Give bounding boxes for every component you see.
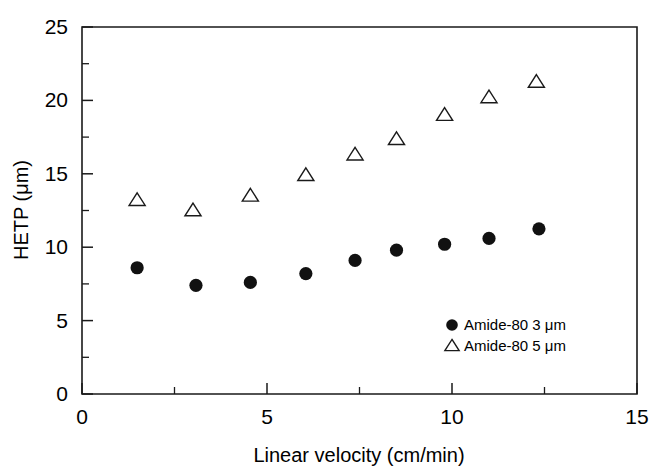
x-tick-label: 0 xyxy=(76,405,88,428)
x-axis-minor-ticks xyxy=(175,387,545,394)
series-amide-80-3um-points xyxy=(131,222,546,292)
data-point-filled-circle xyxy=(299,267,312,280)
data-point-filled-circle xyxy=(189,279,202,292)
x-tick-label: 10 xyxy=(440,405,463,428)
data-point-open-triangle xyxy=(129,193,145,206)
scatter-plot-svg: 0510152025 051015 Linear velocity (cm/mi… xyxy=(0,0,667,474)
data-point-filled-circle xyxy=(244,276,257,289)
legend-label: Amide-80 5 μm xyxy=(464,337,566,354)
data-point-open-triangle xyxy=(298,168,314,181)
y-tick-label: 20 xyxy=(45,88,68,111)
y-axis-title: HETP (μm) xyxy=(10,160,32,260)
x-tick-label: 5 xyxy=(261,405,273,428)
y-axis-minor-ticks xyxy=(82,64,89,358)
data-point-open-triangle xyxy=(388,132,404,145)
x-axis-tick-labels: 051015 xyxy=(76,405,649,428)
data-point-filled-circle xyxy=(131,261,144,274)
data-point-open-triangle xyxy=(528,75,544,88)
data-point-open-triangle xyxy=(242,188,258,201)
data-point-filled-circle xyxy=(438,238,451,251)
y-tick-label: 0 xyxy=(56,382,68,405)
data-point-open-triangle xyxy=(185,203,201,216)
chart-legend: Amide-80 3 μmAmide-80 5 μm xyxy=(445,316,566,354)
y-tick-label: 5 xyxy=(56,309,68,332)
data-point-open-triangle xyxy=(481,90,497,103)
x-tick-label: 15 xyxy=(625,405,648,428)
series-amide-80-5um-points xyxy=(129,75,544,216)
legend-open-triangle-icon xyxy=(445,339,459,350)
y-axis-tick-labels: 0510152025 xyxy=(45,15,68,405)
x-axis-title: Linear velocity (cm/min) xyxy=(253,444,464,466)
y-tick-label: 15 xyxy=(45,162,68,185)
y-tick-label: 10 xyxy=(45,235,68,258)
legend-label: Amide-80 3 μm xyxy=(464,316,566,333)
legend-filled-circle-icon xyxy=(446,319,458,331)
data-point-filled-circle xyxy=(390,244,403,257)
data-point-filled-circle xyxy=(532,222,545,235)
data-point-filled-circle xyxy=(348,254,361,267)
chart-figure: 0510152025 051015 Linear velocity (cm/mi… xyxy=(0,0,667,474)
y-tick-label: 25 xyxy=(45,15,68,38)
data-point-open-triangle xyxy=(437,108,453,121)
data-point-filled-circle xyxy=(482,232,495,245)
data-point-open-triangle xyxy=(347,147,363,160)
